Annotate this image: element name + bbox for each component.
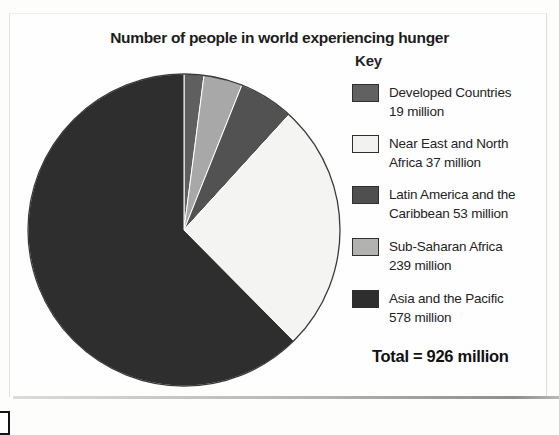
bottom-rule [13, 396, 559, 399]
total-label: Total = 926 million [372, 347, 546, 366]
legend-label-line: 239 million [389, 256, 502, 275]
legend-item-asia-pacific: Asia and the Pacific 578 million [352, 289, 546, 327]
legend-label-line: 578 million [389, 308, 504, 327]
legend-label-line: Developed Countries [389, 83, 511, 102]
legend-swatch-developed-countries [352, 84, 379, 102]
legend-item-near-east-north-africa: Near East and North Africa 37 million [352, 134, 546, 172]
legend-label-line: Africa 37 million [389, 153, 508, 172]
legend-label: Developed Countries 19 million [389, 83, 511, 121]
pie-chart-area [24, 70, 344, 390]
legend-item-latin-america-caribbean: Latin America and the Caribbean 53 milli… [352, 185, 546, 223]
chart-title: Number of people in world experiencing h… [0, 29, 559, 47]
legend-label-line: 19 million [389, 102, 511, 121]
legend-swatch-sub-saharan-africa [352, 238, 379, 256]
pie-chart [24, 70, 344, 390]
legend-label-line: Sub-Saharan Africa [389, 237, 502, 256]
legend-label: Near East and North Africa 37 million [389, 134, 508, 172]
legend-label-line: Caribbean 53 million [389, 204, 515, 223]
legend-item-developed-countries: Developed Countries 19 million [352, 83, 546, 121]
legend-label-line: Asia and the Pacific [389, 289, 504, 308]
legend-label-line: Latin America and the [389, 185, 515, 204]
legend-swatch-near-east-north-africa [352, 135, 379, 153]
legend-label-line: Near East and North [389, 134, 508, 153]
legend-label: Sub-Saharan Africa 239 million [389, 237, 502, 275]
legend-label: Asia and the Pacific 578 million [389, 289, 504, 327]
legend-label: Latin America and the Caribbean 53 milli… [389, 185, 515, 223]
page-corner-mark [0, 411, 10, 435]
legend-swatch-asia-pacific [352, 290, 379, 308]
legend-heading: Key [355, 52, 546, 69]
legend: Key Developed Countries 19 million Near … [350, 52, 546, 366]
legend-item-sub-saharan-africa: Sub-Saharan Africa 239 million [352, 237, 546, 275]
legend-swatch-latin-america-caribbean [352, 186, 379, 204]
